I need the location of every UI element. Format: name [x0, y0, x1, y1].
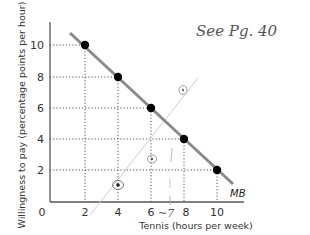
- y-axis-title: Willingness to pay (percentage points pe…: [16, 2, 27, 229]
- data-point: [81, 41, 89, 49]
- data-point: [180, 135, 188, 143]
- x-tick: 0: [39, 206, 46, 219]
- x-tick: 6: [148, 206, 155, 219]
- x-axis-title: Tennis (hours per week): [138, 220, 253, 231]
- y-tick: 4: [37, 133, 44, 146]
- y-tick-labels: 10 8 6 4 2: [30, 39, 44, 177]
- series-label: MB: [230, 188, 246, 199]
- data-point: [213, 166, 221, 174]
- x-tick: 4: [115, 206, 122, 219]
- x-tick: 10: [210, 206, 224, 219]
- x-tick: 2: [82, 206, 89, 219]
- y-tick: 8: [37, 71, 44, 84]
- guide-lines: [50, 45, 217, 202]
- y-tick: 10: [30, 39, 44, 52]
- handwritten-tick: ~7: [158, 207, 174, 220]
- handwritten-note: See Pg. 40: [196, 22, 278, 40]
- data-point: [114, 73, 122, 81]
- data-point: [147, 104, 155, 112]
- x-tick-labels: 0 2 4 6 8 10: [39, 206, 225, 219]
- mb-chart: See Pg. 40 M: [0, 0, 310, 235]
- y-tick: 2: [37, 164, 44, 177]
- pencil-annotations: [90, 78, 198, 215]
- axes: [50, 22, 244, 202]
- x-tick: 8: [183, 206, 190, 219]
- y-tick: 6: [37, 102, 44, 115]
